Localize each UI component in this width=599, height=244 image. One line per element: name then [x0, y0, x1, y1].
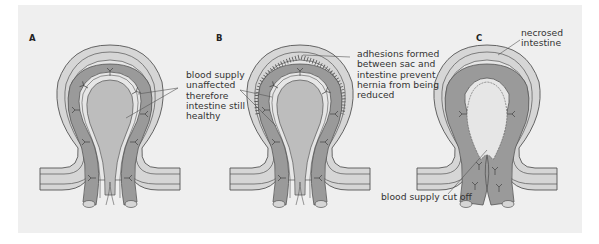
- annotation-necrosed-intestine: necrosed intestine: [521, 28, 563, 49]
- panel-label-a: A: [29, 33, 36, 43]
- annotation-blood-supply-cut-off: blood supply cut off: [381, 192, 472, 202]
- annotation-adhesions: adhesions formed between sac and intesti…: [357, 49, 439, 100]
- panel-label-c: C: [476, 33, 482, 43]
- panel-label-b: B: [216, 33, 222, 43]
- annotation-blood-supply-unaffected: blood supply unaffected therefore intest…: [186, 70, 245, 121]
- hernia-diagram: [0, 0, 599, 244]
- panel-b-hernia: [230, 45, 370, 208]
- panel-a-hernia: [40, 45, 180, 208]
